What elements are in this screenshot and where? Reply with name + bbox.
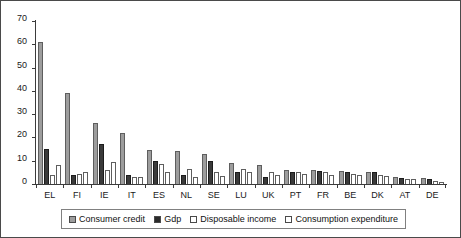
x-axis-label-dk: DK — [364, 190, 391, 201]
y-axis-tick-label: 70 — [17, 14, 27, 23]
bar — [257, 165, 262, 184]
x-axis-tick-mark — [173, 184, 200, 189]
bar-group-nl — [173, 21, 200, 184]
x-axis-label-at: AT — [391, 190, 418, 201]
x-axis-label-fr: FR — [309, 190, 336, 201]
x-axis-tick-mark — [309, 184, 336, 189]
bar — [393, 177, 398, 184]
bar-group-be — [337, 21, 364, 184]
bar — [241, 169, 246, 184]
bar — [311, 170, 316, 184]
bar-group-fr — [309, 21, 336, 184]
x-axis-label-be: BE — [337, 190, 364, 201]
bar — [126, 175, 131, 184]
bar — [147, 150, 152, 184]
bar-group-fi — [63, 21, 90, 184]
y-axis-tick-label: 30 — [17, 107, 27, 116]
bar — [56, 165, 61, 184]
legend-item-consumption-expenditure[interactable]: Consumption expenditure — [285, 214, 398, 224]
x-axis-tick-mark — [227, 184, 254, 189]
bar-group-at — [391, 21, 418, 184]
legend-swatch-gdp-icon — [154, 216, 161, 223]
x-axis-tick-mark — [145, 184, 172, 189]
x-axis-tick-mark — [419, 184, 446, 189]
bar — [275, 175, 280, 184]
bar — [165, 172, 170, 184]
bar — [220, 176, 225, 184]
bar — [329, 175, 334, 184]
x-axis-tick-mark — [364, 184, 391, 189]
chart-legend: Consumer creditGdpDisposable incomeConsu… — [61, 209, 406, 229]
bar — [290, 172, 295, 184]
x-axis-labels: ELFIIEITESNLSELUUKPTFRBEDKATDE — [36, 190, 446, 201]
bar — [372, 172, 377, 184]
bar — [345, 172, 350, 184]
bar-group-ie — [91, 21, 118, 184]
bar — [202, 154, 207, 184]
bar — [159, 164, 164, 184]
bar — [269, 172, 274, 184]
x-axis-label-se: SE — [200, 190, 227, 201]
bar — [284, 170, 289, 184]
bar — [296, 172, 301, 184]
bar — [302, 174, 307, 184]
bar — [357, 175, 362, 184]
y-axis-tick-label: 40 — [17, 84, 27, 93]
y-axis-tick-label: 50 — [17, 61, 27, 70]
bar-group-dk — [364, 21, 391, 184]
legend-swatch-consumption-expenditure-icon — [285, 216, 292, 223]
bar — [187, 169, 192, 184]
legend-item-gdp[interactable]: Gdp — [154, 214, 181, 224]
bar — [93, 123, 98, 184]
legend-item-disposable-income[interactable]: Disposable income — [190, 214, 276, 224]
bar-group-de — [419, 21, 446, 184]
x-axis-tick-mark — [200, 184, 227, 189]
bar — [175, 151, 180, 184]
chart-figure: 010203040506070 ELFIIEITESNLSELUUKPTFRBE… — [0, 0, 461, 238]
legend-item-consumer-credit[interactable]: Consumer credit — [69, 214, 145, 224]
bar — [65, 93, 70, 184]
bar-group-el — [36, 21, 63, 184]
x-axis-tick-mark — [337, 184, 364, 189]
x-axis-tick-marks — [36, 184, 446, 189]
bar-group-it — [118, 21, 145, 184]
bar — [214, 172, 219, 184]
x-axis-tick-mark — [91, 184, 118, 189]
bar — [323, 172, 328, 184]
legend-label: Consumption expenditure — [295, 214, 398, 224]
bar — [339, 171, 344, 184]
bar — [384, 176, 389, 184]
bar — [132, 177, 137, 184]
x-axis-label-it: IT — [118, 190, 145, 201]
x-axis-tick-mark — [391, 184, 418, 189]
bar — [235, 172, 240, 184]
bar — [263, 177, 268, 184]
x-axis-label-ie: IE — [91, 190, 118, 201]
bar — [83, 172, 88, 184]
legend-label: Consumer credit — [79, 214, 145, 224]
bar-group-se — [200, 21, 227, 184]
bar — [208, 161, 213, 184]
x-axis-label-es: ES — [145, 190, 172, 201]
bar — [44, 149, 49, 184]
bar — [50, 175, 55, 184]
x-axis-label-uk: UK — [255, 190, 282, 201]
y-axis-tick-label: 10 — [17, 154, 27, 163]
bar-groups — [36, 21, 446, 184]
x-axis-label-lu: LU — [227, 190, 254, 201]
bar — [153, 161, 158, 184]
bar — [351, 174, 356, 184]
bar — [120, 133, 125, 184]
x-axis-tick-mark — [255, 184, 282, 189]
legend-label: Gdp — [164, 214, 181, 224]
x-axis-tick-mark — [63, 184, 90, 189]
y-axis-tick-label: 60 — [17, 37, 27, 46]
bar — [99, 144, 104, 184]
bar — [77, 174, 82, 184]
x-axis-tick-mark — [118, 184, 145, 189]
bar — [247, 172, 252, 184]
x-axis-label-de: DE — [419, 190, 446, 201]
bar — [181, 175, 186, 184]
bar — [105, 170, 110, 184]
x-axis-label-fi: FI — [63, 190, 90, 201]
